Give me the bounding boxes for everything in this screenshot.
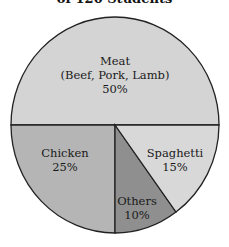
label-meat-sub: (Beef, Pork, Lamb) [60,68,170,82]
label-meat-pct: 50% [60,82,170,96]
label-others-name: Others [112,194,162,208]
label-others-pct: 10% [112,208,162,222]
label-chicken-name: Chicken [35,146,95,160]
label-meat: Meat (Beef, Pork, Lamb) 50% [60,54,170,96]
label-meat-name: Meat [60,54,170,68]
label-others: Others 10% [112,194,162,222]
label-spaghetti-name: Spaghetti [145,146,205,160]
label-spaghetti: Spaghetti 15% [145,146,205,174]
label-spaghetti-pct: 15% [145,160,205,174]
label-chicken-pct: 25% [35,160,95,174]
label-chicken: Chicken 25% [35,146,95,174]
slice-chicken [11,125,115,233]
